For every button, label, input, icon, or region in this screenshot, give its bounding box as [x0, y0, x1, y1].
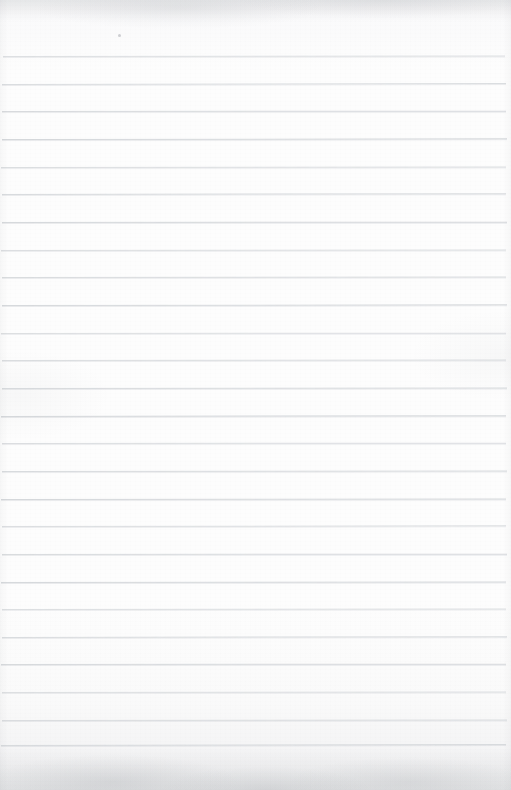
page-body-text[interactable] — [6, 56, 505, 745]
notebook-page — [0, 0, 511, 790]
